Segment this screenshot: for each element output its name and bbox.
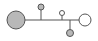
source-node-icon xyxy=(7,11,25,29)
branch-node-top-right-icon xyxy=(60,11,65,16)
branch-node-bottom-icon xyxy=(67,30,74,37)
network-diagram xyxy=(0,0,98,41)
sink-node-icon xyxy=(79,14,91,26)
branch-node-top-left-icon xyxy=(38,4,44,10)
